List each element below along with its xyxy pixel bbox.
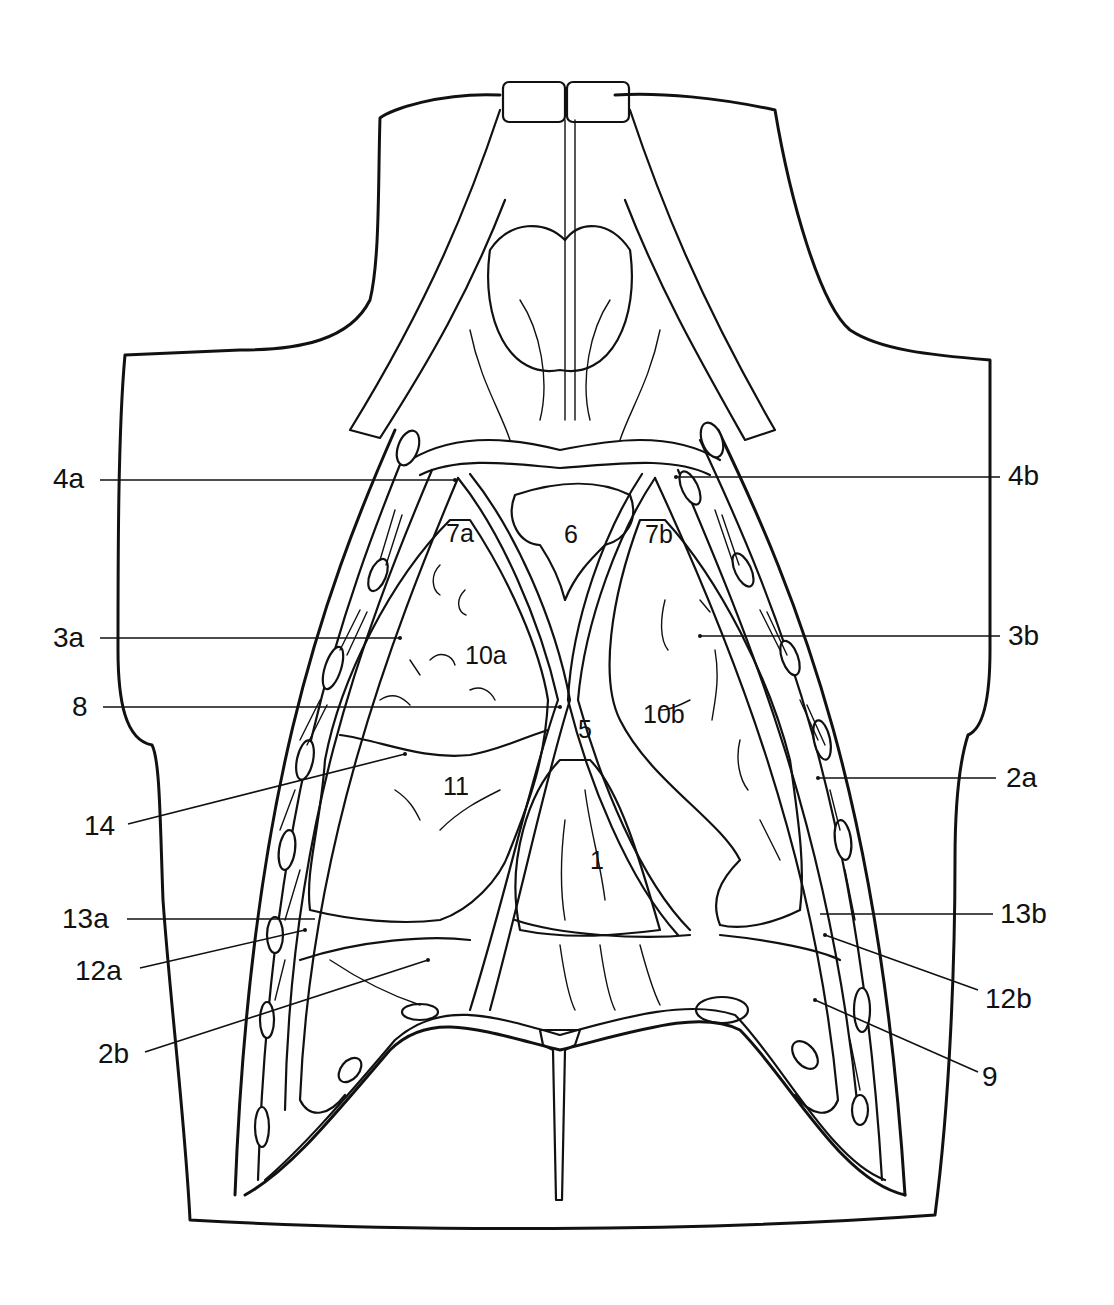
label-6: 6 (564, 522, 578, 547)
left-chest-wall-outer (235, 430, 395, 1195)
anatomy-drawing (0, 0, 1114, 1305)
label-14: 14 (84, 812, 115, 840)
label-11: 11 (443, 774, 469, 799)
larynx-left (503, 82, 565, 122)
label-1: 1 (590, 848, 604, 873)
lung-texture (380, 565, 780, 860)
label-10b: 10b (643, 702, 685, 727)
xiphoid (540, 1030, 580, 1200)
label-13b: 13b (1000, 900, 1047, 928)
larynx-right (567, 82, 629, 122)
label-4b: 4b (1008, 462, 1039, 490)
neck-muscle-right (625, 110, 775, 440)
right-lung (610, 520, 802, 927)
label-10a: 10a (465, 643, 507, 668)
thorax-diagram: 4a 3a 8 14 13a 12a 2b 4b 3b 2a 13b 12b 9… (0, 0, 1114, 1305)
rib-cartilages (255, 420, 870, 1147)
label-12b: 12b (985, 985, 1032, 1013)
label-12a: 12a (75, 957, 122, 985)
label-3b: 3b (1008, 622, 1039, 650)
label-13a: 13a (62, 905, 109, 933)
label-2a: 2a (1006, 764, 1037, 792)
subclavian-vessels (410, 440, 720, 460)
label-5: 5 (578, 717, 592, 742)
label-2b: 2b (98, 1040, 129, 1068)
left-lung-fissure (340, 730, 548, 756)
label-3a: 3a (53, 624, 84, 652)
label-4a: 4a (53, 465, 84, 493)
label-8: 8 (72, 693, 88, 721)
intercostal-hatching (275, 510, 860, 1090)
label-7b: 7b (645, 522, 673, 547)
label-9: 9 (982, 1063, 998, 1091)
label-7a: 7a (446, 521, 474, 546)
diaphragm (300, 920, 840, 960)
heart-outline (516, 760, 660, 936)
thyroid (488, 226, 632, 371)
